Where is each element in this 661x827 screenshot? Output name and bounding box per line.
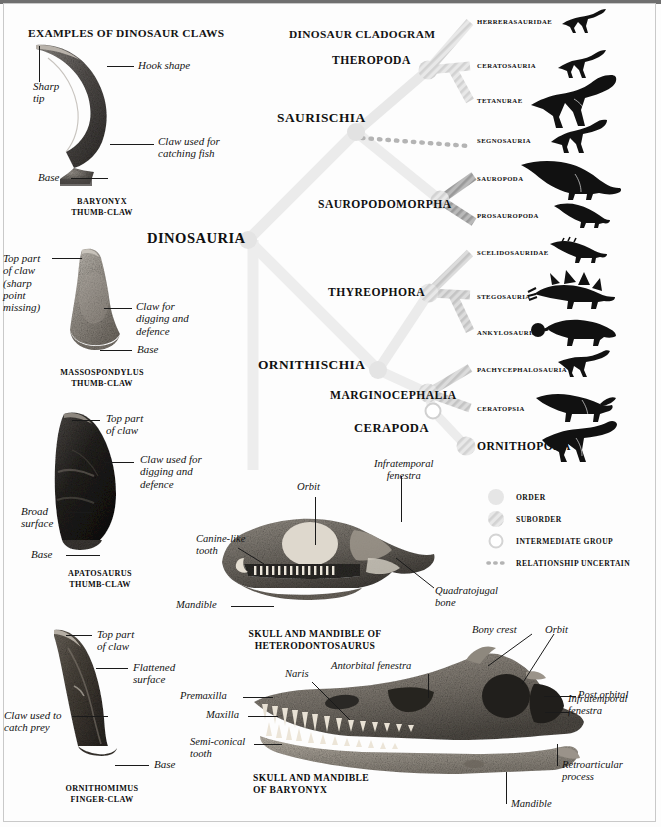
label-mandible-bary: Mandible (511, 798, 552, 810)
caption-apatosaurus-line2: THUMB-CLAW (26, 579, 174, 590)
caption-ornithomimus-line1: ORNITHOMIMUS (26, 783, 178, 794)
terminal-label-stegosauria: STEGOSAURIA (477, 293, 531, 300)
label-orbit-bary: Orbit (545, 624, 568, 636)
label-claw-catch-prey: Claw used to catch prey (4, 709, 61, 734)
cladogram-node-ornithischia: ORNITHISCHIA (258, 357, 365, 373)
label-bony-crest: Bony crest (472, 624, 517, 636)
caption-apatosaurus-line1: APATOSAURUS (26, 568, 174, 579)
caption-ornithomimus-line2: FINGER-CLAW (26, 794, 178, 805)
terminal-label-ankylosauria: ANKYLOSAURIA (477, 329, 537, 336)
terminal-label-herrerasauridae: HERRERASAURIDAE (477, 18, 552, 25)
label-infratemporal-het: Infratemporal fenestra (374, 458, 433, 482)
leader-semi-conical-tooth (254, 744, 282, 745)
leader-naris (312, 682, 352, 722)
cladogram-node-sauropodomorpha: SAUROPODOMORPHA (318, 198, 452, 211)
legend-label-order: ORDER (516, 493, 546, 502)
label-antorbital-fenestra: Antorbital fenestra (331, 660, 411, 672)
leader-mandible-bary (506, 772, 507, 804)
leader-claw-catch-prey (72, 716, 108, 717)
cladogram-node-theropoda: THEROPODA (332, 54, 411, 67)
cladogram-node-dinosauria: DINOSAURIA (147, 230, 246, 247)
label-semi-conical-tooth: Semi-conical tooth (190, 736, 245, 760)
label-broad-surface: Broad surface (21, 505, 53, 530)
terminal-label-prosauropoda: PROSAUROPODA (477, 212, 539, 219)
label-premaxilla: Premaxilla (180, 690, 227, 702)
terminal-label-ceratosauria: CERATOSAURIA (477, 62, 536, 69)
leader-broad-surface (66, 512, 92, 513)
hollow-circle-icon (490, 535, 503, 548)
cladogram-node-marginocephalia: MARGINOCEPHALIA (330, 389, 457, 402)
legend-label-suborder: SUBORDER (516, 515, 562, 524)
label-top-part-ornitho: Top part of claw (97, 628, 134, 653)
leader-quadratojugal (396, 558, 436, 590)
leader-flattened-surface (96, 668, 128, 669)
leader-base-ornitho (115, 765, 149, 766)
orbit-fenestra (282, 522, 338, 566)
leader-orbit-bary (522, 634, 556, 686)
silhouette-herrerasauridae (560, 6, 608, 36)
cladogram-node-cerapoda: CERAPODA (354, 421, 429, 436)
label-maxilla: Maxilla (206, 709, 239, 721)
legend-markers (484, 490, 514, 590)
terminal-label-scelidosauridae: SCELIDOSAURIDAE (477, 249, 549, 256)
label-mandible-het: Mandible (176, 599, 217, 611)
dinosaur-anatomy-page: EXAMPLES OF DINOSAUR CLAWS (0, 0, 661, 827)
suborder-striped-blob-icon (488, 511, 504, 527)
silhouette-prosauropoda (552, 194, 612, 230)
leader-base-apato (66, 555, 100, 556)
label-quadratojugal: Quadratojugal bone (435, 585, 498, 609)
terminal-label-pachycephalosauria: PACHYCEPHALOSAURIA (477, 366, 567, 373)
leader-retroarticular (557, 744, 558, 766)
terminal-label-ceratopsia: CERATOPSIA (477, 405, 525, 412)
silhouette-ankylosauria (530, 306, 618, 348)
leader-antorbital-fenestra (428, 674, 429, 698)
order-blob-icon (488, 489, 504, 505)
caption-heterodontosaurus-line1: SKULL AND MANDIBLE OF (210, 628, 420, 641)
label-canine-tooth-het: Canine-like tooth (196, 533, 245, 557)
cladogram-node-thyreophora: THYREOPHORA (328, 286, 425, 299)
cladogram-title: DINOSAUR CLADOGRAM (289, 28, 435, 41)
terminal-label-segnosauria: SEGNOSAURIA (477, 137, 531, 144)
caption-baryonyx-skull-line2: OF BARYONYX (253, 784, 463, 797)
leader-premaxilla (243, 697, 273, 698)
label-orbit-het: Orbit (297, 481, 320, 493)
label-flattened-surface: Flattened surface (133, 661, 175, 686)
silhouette-ornithopoda (540, 420, 620, 466)
terminal-label-tetanurae: TETANURAE (477, 97, 523, 104)
legend-label-intermediate-group: INTERMEDIATE GROUP (516, 537, 613, 546)
terminal-label-sauropoda: SAUROPODA (477, 175, 523, 182)
label-base-apato: Base (31, 548, 52, 560)
leader-infratemporal-bary (545, 712, 569, 713)
leader-top-part-ornitho (66, 635, 92, 636)
label-base-ornitho: Base (154, 758, 175, 770)
cladogram-node-saurischia: SAURISCHIA (277, 110, 366, 126)
legend-label-relationship-uncertain: RELATIONSHIP UNCERTAIN (516, 559, 630, 568)
leader-orbit-het (315, 497, 316, 545)
label-infratemporal-bary: Infratemporal fenestra (568, 693, 627, 717)
leader-infratemporal-het (401, 476, 402, 522)
leader-mandible-het (231, 606, 274, 607)
silhouette-pachycephalosauria (556, 348, 612, 380)
label-naris: Naris (285, 668, 309, 680)
label-retroarticular-process: Retroarticular process (562, 759, 623, 783)
leader-maxilla (248, 716, 278, 717)
mandible-shape (260, 736, 578, 774)
silhouette-scelidosauridae (548, 232, 612, 266)
caption-baryonyx-skull-line1: SKULL AND MANDIBLE (253, 772, 463, 785)
